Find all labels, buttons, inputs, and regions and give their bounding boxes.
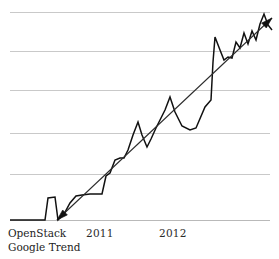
caption-line-openstack: OpenStack bbox=[8, 227, 80, 241]
caption-line-google-trend: Google Trend bbox=[8, 241, 80, 255]
chart-figure: 2011 2012 OpenStack Google Trend bbox=[0, 0, 279, 259]
x-axis-tick-2011: 2011 bbox=[86, 227, 114, 239]
trend-arrow-annotation bbox=[57, 18, 272, 220]
data-series-openstack-google-trend bbox=[10, 14, 272, 220]
chart-caption: OpenStack Google Trend bbox=[8, 227, 80, 254]
chart-plot-area bbox=[0, 0, 279, 259]
x-axis-tick-2012: 2012 bbox=[159, 227, 187, 239]
gridlines-group bbox=[10, 13, 270, 221]
trend-line-shaft bbox=[57, 18, 272, 220]
